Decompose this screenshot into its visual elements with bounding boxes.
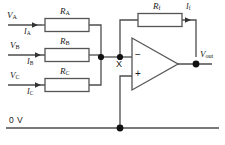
ground-rail-label: 0 V: [9, 116, 23, 125]
resistor-c-label: RC: [60, 67, 70, 76]
summing-node-label: X: [116, 60, 122, 69]
input-c-current-label: IC: [27, 88, 33, 97]
input-b-voltage-label: VB: [10, 41, 20, 50]
feedback-current-arrowhead: [185, 17, 191, 23]
input-a-current-label: IA: [24, 28, 31, 37]
input-c-voltage-label: VC: [10, 71, 20, 80]
input-c-arrowhead: [35, 82, 41, 88]
feedback-current-label: If: [186, 3, 190, 12]
resistor-b-body: [45, 49, 89, 62]
resistor-a-label: RA: [60, 7, 70, 16]
noninverting-input-wire: [120, 76, 132, 128]
resistor-a-body: [45, 19, 89, 32]
input-a-voltage-label: VA: [7, 11, 17, 20]
feedback-right-wire: [182, 20, 196, 57]
junction-dot-ground: [117, 125, 124, 132]
feedback-resistor-label: Rf: [153, 2, 161, 11]
input-a-right-wire: [89, 25, 101, 57]
opamp-noninverting-input-symbol: +: [135, 69, 141, 79]
junction-dot-output: [193, 61, 200, 68]
output-voltage-label: Vout: [200, 50, 213, 59]
resistor-b-label: RB: [60, 37, 70, 46]
opamp-inverting-input-symbol: −: [135, 50, 141, 60]
input-c-right-wire: [89, 57, 101, 85]
opamp-triangle: [132, 38, 178, 90]
input-b-arrowhead: [35, 52, 41, 58]
input-a-arrowhead: [32, 22, 38, 28]
resistor-c-body: [45, 79, 89, 92]
junction-dot-input-bus: [98, 54, 104, 60]
input-b-current-label: IB: [27, 58, 33, 67]
circuit-diagram: VA IA RA VB IB RB VC IC RC Rf If X Vout …: [0, 0, 225, 145]
circuit-schematic-svg: [0, 0, 225, 145]
resistor-f-body: [138, 14, 182, 27]
